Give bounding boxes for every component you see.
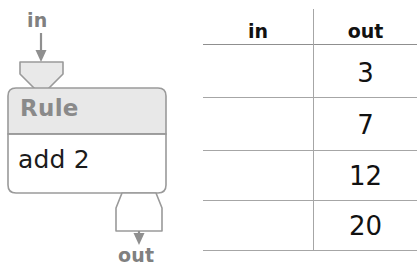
in-label: in bbox=[27, 11, 47, 30]
rule-expression: add 2 bbox=[18, 147, 90, 172]
table-header-rule bbox=[203, 44, 417, 45]
rule-title: Rule bbox=[20, 97, 79, 120]
table-row-divider-2 bbox=[203, 150, 417, 151]
table-cell-out-4[interactable]: 20 bbox=[314, 213, 417, 239]
table-bottom-rule bbox=[203, 250, 417, 251]
table-cell-out-3[interactable]: 12 bbox=[314, 163, 417, 189]
table-row-divider-3 bbox=[203, 200, 417, 201]
out-arrow-icon bbox=[134, 231, 145, 245]
table-header-out: out bbox=[314, 22, 417, 41]
in-out-table: in out 3 7 12 20 bbox=[203, 0, 417, 275]
table-cell-out-2[interactable]: 7 bbox=[314, 112, 417, 138]
input-hopper-shape bbox=[20, 62, 63, 89]
table-row-divider-1 bbox=[203, 97, 417, 98]
output-funnel-shape bbox=[116, 193, 162, 231]
table-header-in: in bbox=[203, 22, 313, 41]
out-label: out bbox=[118, 246, 154, 265]
in-arrow-icon bbox=[36, 33, 47, 62]
table-cell-out-1[interactable]: 3 bbox=[314, 60, 417, 86]
worksheet-canvas: in out Rule add 2 in out 3 7 12 20 bbox=[0, 0, 417, 275]
rule-machine-diagram bbox=[0, 0, 200, 275]
